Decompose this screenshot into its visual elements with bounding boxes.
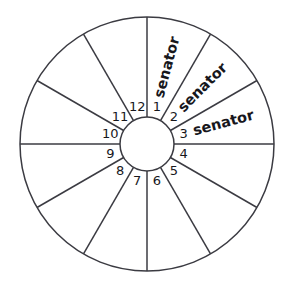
wheel-diagram: 123456789101112 senatorsenatorsenator xyxy=(0,0,290,284)
sector-number-3: 3 xyxy=(180,126,188,141)
sector-number-11: 11 xyxy=(112,109,129,124)
hub-circle xyxy=(120,117,174,171)
sector-number-2: 2 xyxy=(170,109,178,124)
sector-number-5: 5 xyxy=(170,163,178,178)
sector-number-9: 9 xyxy=(106,146,114,161)
sector-number-8: 8 xyxy=(116,163,124,178)
sector-number-10: 10 xyxy=(102,126,119,141)
sector-number-6: 6 xyxy=(153,173,161,188)
wheel-svg: 123456789101112 senatorsenatorsenator xyxy=(0,0,290,284)
sector-number-4: 4 xyxy=(180,146,188,161)
sector-number-12: 12 xyxy=(129,99,146,114)
sector-number-1: 1 xyxy=(153,99,161,114)
sector-number-7: 7 xyxy=(133,173,141,188)
